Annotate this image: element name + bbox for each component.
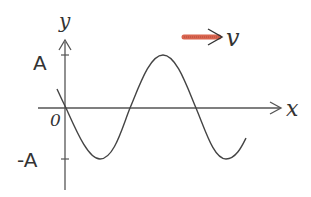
- x-axis-label: x: [286, 96, 299, 121]
- velocity-label: v: [226, 24, 240, 52]
- wave-curve: [57, 55, 246, 159]
- origin-label: 0: [50, 110, 61, 130]
- y-axis-label: y: [58, 9, 71, 33]
- wave-diagram: y x A -A 0 v: [0, 0, 311, 197]
- amplitude-label-neg: -A: [17, 148, 38, 172]
- amplitude-label-pos: A: [33, 51, 47, 75]
